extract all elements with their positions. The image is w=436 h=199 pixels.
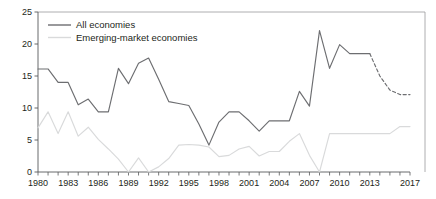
series-line-0-forecast: [370, 54, 410, 95]
y-axis-ticks: [35, 12, 39, 172]
x-tick-label-1980: 1980: [28, 178, 48, 188]
x-tick-label-2007: 2007: [299, 178, 319, 188]
data-series-group: [38, 31, 410, 172]
x-tick-label-1986: 1986: [88, 178, 108, 188]
x-tick-label-1983: 1983: [58, 178, 78, 188]
line-chart: 0510152025 19801983198619891992199519982…: [0, 0, 436, 199]
legend-label-0: All economies: [76, 19, 135, 30]
x-tick-label-2004: 2004: [269, 178, 289, 188]
x-tick-label-1995: 1995: [179, 178, 199, 188]
y-tick-label-15: 15: [22, 71, 32, 81]
x-tick-label-2017: 2017: [400, 178, 420, 188]
y-tick-label-20: 20: [22, 39, 32, 49]
x-tick-label-1989: 1989: [118, 178, 138, 188]
y-tick-label-25: 25: [22, 7, 32, 17]
x-axis-ticks: [38, 172, 410, 176]
y-tick-label-0: 0: [27, 167, 32, 177]
x-tick-label-1992: 1992: [149, 178, 169, 188]
x-axis-tick-labels: 1980198319861989199219951998200120042007…: [28, 178, 420, 188]
x-tick-label-2010: 2010: [330, 178, 350, 188]
chart-legend: All economiesEmerging-market economies: [48, 19, 198, 43]
y-tick-label-10: 10: [22, 103, 32, 113]
chart-container: 0510152025 19801983198619891992199519982…: [0, 0, 436, 199]
x-tick-label-2001: 2001: [239, 178, 259, 188]
x-tick-label-1998: 1998: [209, 178, 229, 188]
y-tick-label-5: 5: [27, 135, 32, 145]
series-line-1: [38, 112, 410, 172]
x-tick-label-2013: 2013: [360, 178, 380, 188]
legend-label-1: Emerging-market economies: [76, 32, 198, 43]
y-axis-tick-labels: 0510152025: [22, 7, 32, 177]
